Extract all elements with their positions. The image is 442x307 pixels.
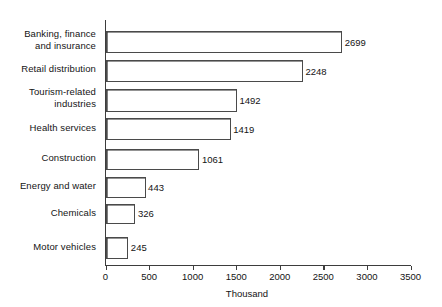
x-axis-title-text: Thousand [226,288,268,299]
bar-value-retail: 2248 [305,66,326,77]
x-axis-line [105,265,411,266]
x-tick-label-3500: 3500 [400,271,421,282]
x-tick-label-500: 500 [141,271,157,282]
x-tick-label-1000: 1000 [182,271,203,282]
x-tick-label-2500: 2500 [313,271,334,282]
bar-value-health-services: 1419 [233,124,254,135]
x-tick-3500 [411,266,412,270]
y-axis-line [105,20,106,266]
category-label-banking: Banking, finance and insurance [0,28,96,51]
x-tick-2500 [323,266,324,270]
bar-chemicals [106,204,136,224]
x-tick-0 [106,266,107,270]
x-tick-2000 [280,266,281,270]
bar-value-motor-vehicles: 245 [131,242,147,253]
bar-chart: Banking, finance and insurance Retail di… [0,0,442,307]
bar-construction [106,149,200,170]
bar-retail [106,60,303,82]
x-tick-label-3000: 3000 [356,271,377,282]
category-label-motor-vehicles: Motor vehicles [0,241,96,253]
category-label-energy-and-water: Energy and water [0,180,96,192]
x-tick-label-2000: 2000 [269,271,290,282]
x-tick-label-1500: 1500 [226,271,247,282]
bar-value-construction: 1061 [202,154,223,165]
category-label-construction: Construction [0,152,96,164]
bar-tourism [106,89,237,112]
x-tick-label-0: 0 [103,271,108,282]
x-tick-3000 [367,266,368,270]
bar-value-energy-and-water: 443 [148,182,164,193]
x-tick-1500 [236,266,237,270]
bar-health-services [106,118,231,140]
x-tick-1000 [193,266,194,270]
bar-banking [106,31,343,53]
category-label-retail: Retail distribution [0,63,96,75]
category-label-health-services: Health services [0,122,96,134]
x-axis-title: Thousand [0,288,442,299]
category-label-chemicals: Chemicals [0,207,96,219]
category-label-tourism: Tourism-related industries [0,86,96,109]
bar-energy-and-water [106,177,146,198]
x-tick-500 [149,266,150,270]
bar-value-chemicals: 326 [138,208,154,219]
bar-value-banking: 2699 [345,37,366,48]
bar-motor-vehicles [106,237,129,259]
bar-value-tourism: 1492 [240,95,261,106]
